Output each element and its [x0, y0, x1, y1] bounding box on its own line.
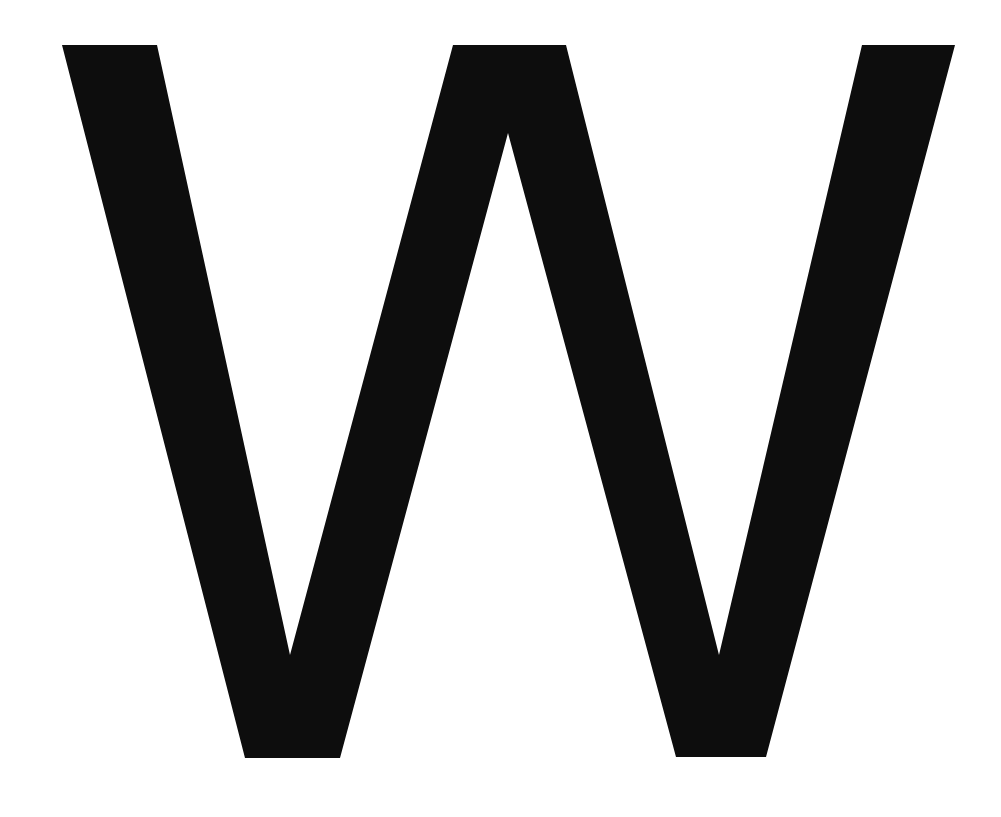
letter-w-glyph — [0, 0, 1001, 817]
glyph-canvas: W — [0, 0, 1001, 817]
